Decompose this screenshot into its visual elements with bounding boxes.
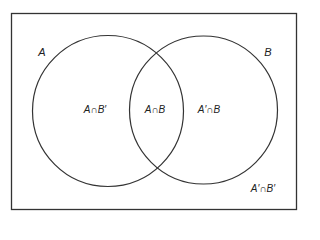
set-b-label: B: [264, 47, 271, 58]
region-a-not-b-label: A∩B′: [84, 105, 106, 115]
region-not-a-and-b-label: A′∩B: [198, 105, 220, 115]
region-a-and-b-label: A∩B: [145, 105, 166, 115]
region-not-a-not-b-label: A′∩B′: [251, 184, 275, 194]
set-a-label: A: [38, 47, 45, 58]
